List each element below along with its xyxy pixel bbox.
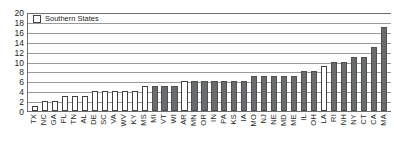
x-label-slot: AR bbox=[179, 114, 189, 154]
x-axis-label-sc: SC bbox=[100, 114, 108, 125]
bar-pa[interactable] bbox=[221, 81, 227, 111]
x-axis-label-mo: MO bbox=[250, 114, 258, 126]
bar-ga[interactable] bbox=[52, 101, 58, 111]
bar-or[interactable] bbox=[201, 81, 207, 111]
x-label-slot: OH bbox=[309, 114, 319, 154]
x-axis-label-ny: NY bbox=[350, 114, 358, 125]
bar-slot bbox=[309, 13, 319, 111]
bar-va[interactable] bbox=[112, 91, 118, 111]
x-axis-labels: TXNCGAFLTNALDESCVAWVKYMSMIVTWIARMNORINPA… bbox=[27, 114, 391, 154]
bar-series bbox=[28, 13, 391, 111]
x-label-slot: MO bbox=[249, 114, 259, 154]
bar-slot bbox=[120, 13, 130, 111]
bar-slot bbox=[50, 13, 60, 111]
bar-mo[interactable] bbox=[251, 76, 257, 111]
x-axis-label-tx: TX bbox=[30, 114, 38, 124]
bar-slot bbox=[269, 13, 279, 111]
x-label-slot: AL bbox=[79, 114, 89, 154]
legend-label: Southern States bbox=[45, 15, 99, 23]
x-axis-label-va: VA bbox=[110, 114, 118, 124]
bar-ms[interactable] bbox=[142, 86, 148, 111]
bar-de[interactable] bbox=[92, 91, 98, 111]
bar-fl[interactable] bbox=[62, 96, 68, 111]
x-label-slot: KY bbox=[129, 114, 139, 154]
bar-slot bbox=[70, 13, 80, 111]
x-axis-label-ct: CT bbox=[360, 114, 368, 124]
bar-slot bbox=[160, 13, 170, 111]
x-label-slot: VT bbox=[159, 114, 169, 154]
bar-mi[interactable] bbox=[152, 86, 158, 111]
x-axis-label-md: MD bbox=[280, 114, 288, 126]
bar-il[interactable] bbox=[301, 71, 307, 111]
x-axis-label-me: ME bbox=[290, 114, 298, 126]
x-label-slot: MS bbox=[139, 114, 149, 154]
x-axis-label-de: DE bbox=[90, 114, 98, 125]
bar-ca[interactable] bbox=[371, 47, 377, 111]
bar-slot bbox=[130, 13, 140, 111]
x-axis-label-pa: PA bbox=[220, 114, 228, 124]
bar-la[interactable] bbox=[321, 66, 327, 111]
bar-oh[interactable] bbox=[311, 71, 317, 111]
bar-ny[interactable] bbox=[351, 57, 357, 111]
bar-nj[interactable] bbox=[261, 76, 267, 111]
x-axis-label-nh: NH bbox=[340, 114, 348, 125]
bar-vt[interactable] bbox=[161, 86, 167, 111]
x-label-slot: DE bbox=[89, 114, 99, 154]
y-axis-tick: 12 bbox=[0, 48, 24, 57]
bar-slot bbox=[110, 13, 120, 111]
x-axis-label-ri: RI bbox=[330, 114, 338, 122]
bar-ri[interactable] bbox=[331, 62, 337, 112]
x-axis-label-ma: MA bbox=[380, 114, 388, 126]
x-label-slot: MN bbox=[189, 114, 199, 154]
bar-wi[interactable] bbox=[171, 86, 177, 111]
x-label-slot: NJ bbox=[259, 114, 269, 154]
bar-md[interactable] bbox=[281, 76, 287, 111]
x-label-slot: WI bbox=[169, 114, 179, 154]
bar-slot bbox=[279, 13, 289, 111]
bar-wv[interactable] bbox=[122, 91, 128, 111]
x-label-slot: KS bbox=[229, 114, 239, 154]
y-axis-tick: 20 bbox=[0, 9, 24, 18]
bar-slot bbox=[329, 13, 339, 111]
x-label-slot: IA bbox=[239, 114, 249, 154]
bar-tn[interactable] bbox=[72, 96, 78, 111]
bar-slot bbox=[369, 13, 379, 111]
bar-al[interactable] bbox=[82, 96, 88, 111]
bar-ct[interactable] bbox=[361, 57, 367, 111]
bar-slot bbox=[170, 13, 180, 111]
x-axis-label-ar: AR bbox=[180, 114, 188, 125]
bar-mn[interactable] bbox=[191, 81, 197, 111]
bar-slot bbox=[359, 13, 369, 111]
plot-area bbox=[27, 13, 391, 112]
bar-slot bbox=[289, 13, 299, 111]
bar-nc[interactable] bbox=[42, 101, 48, 111]
bar-ks[interactable] bbox=[231, 81, 237, 111]
x-axis-label-ky: KY bbox=[130, 114, 138, 124]
bar-slot bbox=[140, 13, 150, 111]
bar-ky[interactable] bbox=[132, 91, 138, 111]
bar-nh[interactable] bbox=[341, 62, 347, 112]
y-axis-tick: 14 bbox=[0, 38, 24, 47]
bar-ma[interactable] bbox=[381, 27, 387, 111]
bar-slot bbox=[190, 13, 200, 111]
bar-slot bbox=[379, 13, 389, 111]
bar-in[interactable] bbox=[211, 81, 217, 111]
x-label-slot: CT bbox=[359, 114, 369, 154]
bar-sc[interactable] bbox=[102, 91, 108, 111]
x-label-slot: MA bbox=[379, 114, 389, 154]
x-axis-label-or: OR bbox=[200, 114, 208, 126]
bar-me[interactable] bbox=[291, 76, 297, 111]
bar-tx[interactable] bbox=[32, 106, 38, 111]
bar-ia[interactable] bbox=[241, 81, 247, 111]
bar-slot bbox=[349, 13, 359, 111]
x-axis-label-mi: MI bbox=[150, 114, 158, 123]
y-axis-tick: 18 bbox=[0, 19, 24, 28]
x-label-slot: IN bbox=[209, 114, 219, 154]
bar-ar[interactable] bbox=[181, 81, 187, 111]
x-axis-label-oh: OH bbox=[310, 114, 318, 126]
x-label-slot: LA bbox=[319, 114, 329, 154]
x-label-slot: NH bbox=[339, 114, 349, 154]
bar-slot bbox=[180, 13, 190, 111]
x-label-slot: FL bbox=[59, 114, 69, 154]
bar-ne[interactable] bbox=[271, 76, 277, 111]
